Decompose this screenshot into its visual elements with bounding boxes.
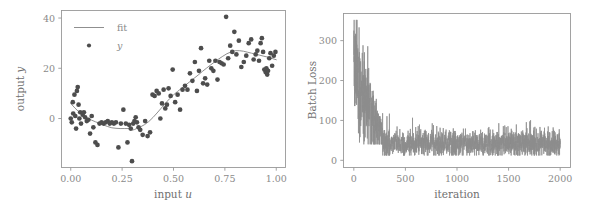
scatter-point (89, 114, 94, 119)
scatter-point (165, 102, 170, 107)
loss-plot-panel: 05001000150020000100200300 Batch Loss it… (301, 0, 602, 209)
x-tick-label: 0.00 (60, 173, 81, 184)
x-tick-label: 1.00 (266, 173, 287, 184)
scatter-point (130, 159, 135, 164)
x-tick-label: 1500 (496, 173, 520, 184)
x-tick-label: 500 (396, 173, 414, 184)
scatter-point (188, 71, 193, 76)
scatter-point (228, 43, 233, 48)
y-tick-label: 40 (43, 13, 55, 24)
scatter-point (70, 100, 75, 105)
scatter-point (156, 91, 161, 96)
scatter-point (161, 87, 166, 92)
x-tick-label: 0.50 (163, 173, 184, 184)
axis-ticks-left (58, 18, 276, 171)
scatter-point (267, 56, 272, 61)
svg-text:input u: input u (154, 188, 192, 200)
scatter-point (148, 130, 153, 135)
scatter-point (128, 126, 133, 131)
scatter-point (215, 77, 220, 82)
data-points-series (68, 14, 277, 163)
scatter-point (168, 94, 173, 99)
scatter-point (76, 102, 81, 107)
scatter-point (224, 14, 229, 19)
scatter-point (221, 62, 226, 67)
y-tick-label: 100 (319, 115, 337, 126)
scatter-point (230, 50, 235, 55)
scatter-point (95, 143, 100, 148)
scatter-point (160, 101, 165, 106)
x-tick-label: 1000 (445, 173, 469, 184)
scatter-point (135, 120, 140, 125)
scatter-point (88, 131, 93, 136)
scatter-point (170, 67, 175, 72)
scatter-point (77, 116, 82, 121)
scatter-point (138, 127, 143, 132)
scatter-plot-svg: 0.000.250.500.751.0002040 fit y output y… (0, 0, 301, 209)
x-axis-label-static: input (154, 188, 185, 200)
x-tick-label: 0.75 (214, 173, 235, 184)
y-axis-label-static: output (14, 73, 26, 111)
scatter-point (226, 56, 231, 61)
scatter-point (114, 120, 119, 125)
scatter-point (260, 36, 265, 41)
loss-plot-svg: 05001000150020000100200300 Batch Loss it… (301, 0, 602, 209)
y-axis-label-left: output y (14, 66, 26, 111)
scatter-point (82, 110, 87, 115)
scatter-point (195, 89, 200, 94)
scatter-point (201, 81, 206, 86)
legend-left: fit y (74, 22, 127, 51)
scatter-point (258, 41, 263, 46)
scatter-point (255, 48, 260, 53)
scatter-point (244, 53, 249, 58)
scatter-point (75, 85, 80, 90)
scatter-point (249, 37, 254, 42)
scatter-point (73, 114, 78, 119)
y-tick-label: 0 (49, 113, 55, 124)
scatter-point (241, 60, 246, 65)
scatter-point (143, 119, 148, 124)
y-axis-label-right: Batch Loss (306, 61, 318, 119)
scatter-point (203, 76, 208, 81)
scatter-point (173, 100, 178, 105)
scatter-point (86, 117, 91, 122)
scatter-point (185, 87, 190, 92)
y-tick-label: 0 (331, 155, 337, 166)
scatter-point (79, 121, 84, 126)
scatter-plot-panel: 0.000.250.500.751.0002040 fit y output y… (0, 0, 301, 209)
y-tick-label: 200 (319, 75, 337, 86)
scatter-point (211, 68, 216, 73)
x-axis-label-italic: u (185, 188, 192, 200)
x-axis-label-right-text: iteration (434, 188, 480, 200)
x-tick-label: 0.25 (112, 173, 133, 184)
scatter-point (270, 63, 275, 68)
legend-y-label: y (116, 40, 123, 51)
scatter-point (266, 68, 271, 73)
scatter-point (207, 58, 212, 63)
scatter-point (251, 57, 256, 62)
figure-container: 0.000.250.500.751.0002040 fit y output y… (0, 0, 602, 209)
scatter-point (74, 126, 79, 131)
scatter-point (190, 78, 195, 83)
scatter-point (239, 65, 244, 70)
scatter-point (140, 132, 145, 137)
scatter-point (273, 50, 278, 55)
scatter-point (69, 120, 74, 125)
scatter-point (166, 86, 171, 91)
scatter-point (158, 116, 163, 121)
legend-y-dot-swatch (87, 43, 91, 47)
scatter-point (178, 107, 183, 112)
scatter-point (234, 52, 239, 57)
scatter-point (119, 121, 124, 126)
y-axis-label-right-text: Batch Loss (306, 61, 318, 119)
scatter-point (91, 125, 96, 130)
scatter-point (232, 30, 237, 35)
scatter-point (116, 145, 121, 150)
scatter-point (193, 60, 198, 65)
legend-fit-label: fit (117, 22, 127, 33)
scatter-point (205, 82, 210, 87)
scatter-point (237, 38, 242, 43)
batch-loss-series (354, 20, 560, 156)
scatter-point (213, 58, 218, 63)
scatter-point (257, 58, 262, 63)
